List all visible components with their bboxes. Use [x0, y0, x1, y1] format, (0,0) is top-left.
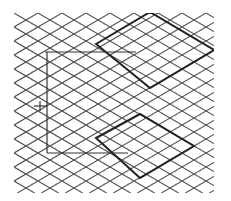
grid-line [0, 13, 134, 193]
grid-line [0, 13, 11, 193]
grid-line [0, 13, 83, 193]
grid-line [182, 13, 231, 193]
grid-line [206, 13, 231, 193]
grid-line [0, 13, 35, 193]
isometric-grid-diagram [0, 0, 231, 201]
grid-line [0, 13, 182, 193]
grid-line [38, 13, 231, 193]
grid-line [209, 13, 231, 193]
grid-line [230, 13, 231, 193]
grid-line [0, 13, 59, 193]
upper-diamond-outline [96, 12, 214, 88]
isometric-grid [0, 0, 231, 201]
grid-line [0, 13, 14, 193]
grid-line [0, 13, 38, 193]
